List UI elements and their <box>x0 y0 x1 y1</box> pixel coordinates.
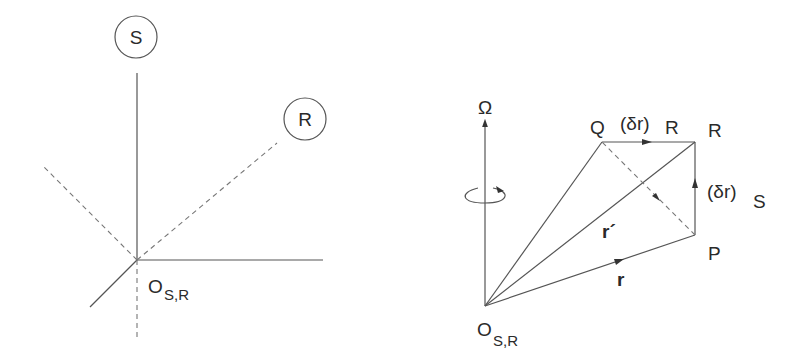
origin-subscript-left: S,R <box>164 286 189 303</box>
dashed-arrowhead <box>652 193 660 201</box>
origin-label-right: O <box>477 319 492 340</box>
delta-r-s-label: (δr) <box>707 181 737 202</box>
rotating-frames-figure: S R O S,R Ω Q R P (δr) R <box>0 0 807 363</box>
delta-r-r-label: (δr) <box>620 113 650 134</box>
delta-r-r-arrowhead <box>642 139 652 145</box>
dashed-p-to-q <box>602 142 695 235</box>
dashed-axis-upper-left <box>42 165 137 260</box>
frame-r-label: R <box>298 109 312 130</box>
line-o-to-r <box>485 142 695 306</box>
vector-r-label: r <box>617 269 625 290</box>
delta-r-r-subscript: R <box>665 117 679 138</box>
delta-r-s-arrowhead <box>692 178 698 188</box>
line-o-to-q <box>485 142 602 306</box>
dashed-axis-to-r <box>137 143 277 260</box>
point-q-label: Q <box>590 117 605 138</box>
vector-r <box>485 235 695 306</box>
origin-subscript-right: S,R <box>493 332 518 349</box>
left-diagram: S R O S,R <box>42 16 326 338</box>
point-p-label: P <box>708 243 721 264</box>
oblique-axis <box>90 260 137 307</box>
vector-r-arrowhead <box>614 259 624 265</box>
delta-r-s-subscript: S <box>753 191 766 212</box>
point-r-label: R <box>708 120 722 141</box>
vector-r-prime-label: r´ <box>602 221 616 242</box>
omega-label: Ω <box>478 97 492 118</box>
frame-s-label: S <box>130 27 143 48</box>
right-diagram: Ω Q R P (δr) R (δr) S r´ r O S,R <box>465 97 766 349</box>
origin-label-left: O <box>148 276 163 297</box>
